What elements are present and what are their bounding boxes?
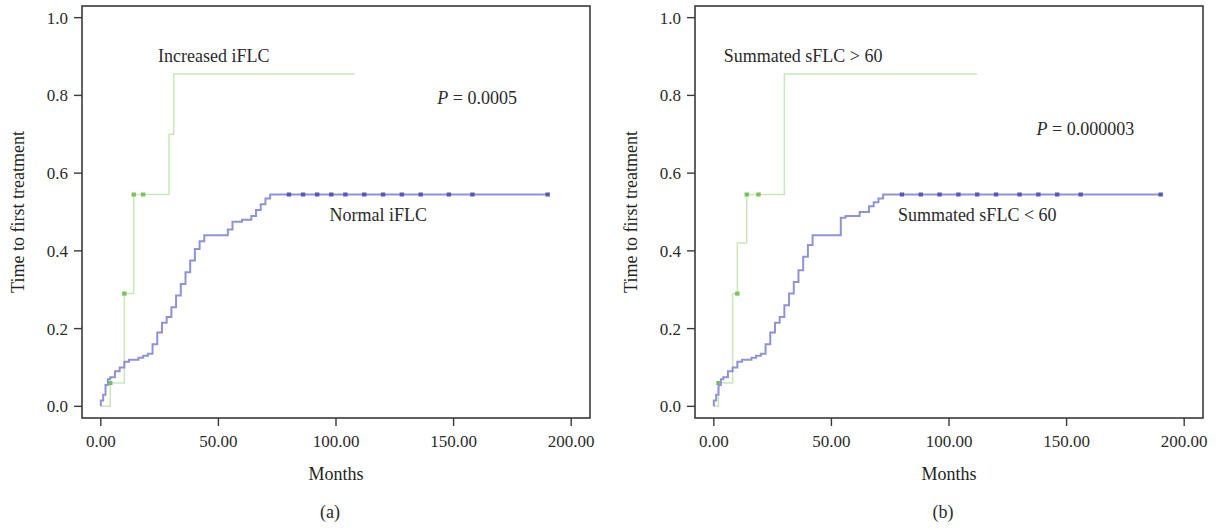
censor-mark — [400, 193, 404, 197]
curve-high-group — [714, 74, 977, 406]
y-tick-label: 0.2 — [660, 320, 681, 339]
censor-mark — [447, 193, 451, 197]
y-tick-label: 1.0 — [660, 9, 681, 28]
censor-mark — [381, 193, 385, 197]
y-tick-label: 0.0 — [47, 397, 68, 416]
plot-b: 0.0050.00100.00150.00200.000.00.20.40.60… — [621, 6, 1208, 523]
censor-mark — [1036, 193, 1040, 197]
censor-mark — [418, 193, 422, 197]
censor-mark — [937, 193, 941, 197]
y-tick-label: 0.2 — [47, 320, 68, 339]
x-tick-label: 50.00 — [199, 432, 237, 451]
censor-mark — [756, 193, 760, 197]
y-tick-label: 0.0 — [660, 397, 681, 416]
x-tick-label: 150.00 — [430, 432, 477, 451]
y-tick-label: 1.0 — [47, 9, 68, 28]
curve-low-group — [101, 195, 548, 407]
censor-mark — [1055, 193, 1059, 197]
x-tick-label: 200.00 — [1161, 432, 1208, 451]
censor-mark — [315, 193, 319, 197]
x-tick-label: 50.00 — [812, 432, 850, 451]
censor-mark — [745, 193, 749, 197]
censor-mark — [301, 193, 305, 197]
y-tick-label: 0.6 — [660, 164, 681, 183]
x-axis-title: Months — [921, 464, 976, 484]
y-tick-label: 0.4 — [660, 242, 682, 261]
censor-mark — [735, 292, 739, 296]
y-tick-label: 0.6 — [47, 164, 68, 183]
p-value-annotation: P = 0.000003 — [1036, 119, 1135, 139]
censor-mark — [132, 193, 136, 197]
x-tick-label: 100.00 — [926, 432, 973, 451]
x-tick-label: 100.00 — [313, 432, 360, 451]
y-axis-title: Time to first treatment — [8, 131, 28, 293]
x-tick-label: 0.00 — [699, 432, 729, 451]
p-value-number: = 0.0005 — [448, 88, 517, 108]
curve-low-group — [714, 195, 1161, 407]
p-value-number: = 0.000003 — [1048, 119, 1135, 139]
label-high-series: Increased iFLC — [158, 46, 269, 66]
censor-mark — [343, 193, 347, 197]
censor-mark — [975, 193, 979, 197]
figure-kaplan-meier-panels: 0.0050.00100.00150.00200.000.00.20.40.60… — [0, 0, 1226, 531]
censor-mark — [1079, 193, 1083, 197]
label-low-series: Summated sFLC < 60 — [898, 205, 1057, 225]
x-axis-title: Months — [308, 464, 363, 484]
censor-mark — [122, 292, 126, 296]
censor-mark — [900, 193, 904, 197]
censor-mark — [362, 193, 366, 197]
plot-a: 0.0050.00100.00150.00200.000.00.20.40.60… — [8, 6, 595, 523]
y-axis-title: Time to first treatment — [621, 131, 641, 293]
y-tick-label: 0.8 — [660, 86, 681, 105]
y-tick-label: 0.4 — [47, 242, 69, 261]
censor-mark — [1017, 193, 1021, 197]
label-low-series: Normal iFLC — [330, 205, 428, 225]
censor-mark — [141, 193, 145, 197]
panel-b: 0.0050.00100.00150.00200.000.00.20.40.60… — [613, 0, 1226, 531]
censor-mark — [994, 193, 998, 197]
x-tick-label: 150.00 — [1043, 432, 1090, 451]
p-value-symbol: P — [436, 88, 448, 108]
censor-mark — [956, 193, 960, 197]
censor-mark — [545, 193, 549, 197]
p-value-annotation: P = 0.0005 — [436, 88, 517, 108]
censor-mark — [1158, 193, 1162, 197]
panel-b-svg: 0.0050.00100.00150.00200.000.00.20.40.60… — [613, 0, 1226, 531]
y-tick-label: 0.8 — [47, 86, 68, 105]
censor-mark — [329, 193, 333, 197]
curve-high-group — [101, 74, 355, 406]
censor-mark — [470, 193, 474, 197]
censor-mark — [287, 193, 291, 197]
panel-a: 0.0050.00100.00150.00200.000.00.20.40.60… — [0, 0, 613, 531]
x-tick-label: 0.00 — [86, 432, 116, 451]
censor-mark — [919, 193, 923, 197]
panel-caption: (b) — [933, 502, 954, 523]
panel-a-svg: 0.0050.00100.00150.00200.000.00.20.40.60… — [0, 0, 613, 531]
panel-caption: (a) — [320, 502, 340, 523]
label-high-series: Summated sFLC > 60 — [724, 46, 883, 66]
x-tick-label: 200.00 — [548, 432, 595, 451]
p-value-symbol: P — [1036, 119, 1048, 139]
